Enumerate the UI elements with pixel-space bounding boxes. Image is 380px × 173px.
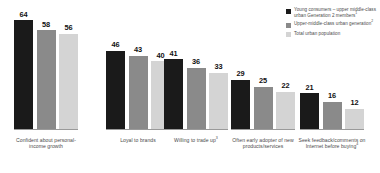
bar-value-label: 33: [214, 63, 222, 71]
bar: [300, 93, 319, 129]
category-label: Willing to trade up3: [158, 137, 234, 143]
bar: [276, 92, 295, 129]
bar-value-label: 12: [350, 99, 358, 107]
bar-value-label: 46: [111, 41, 119, 49]
bar-value-label: 29: [236, 70, 244, 78]
bar-group-bars: 413633: [164, 0, 232, 129]
bar-value-label: 64: [19, 11, 27, 19]
bar-group: 211612: [300, 0, 368, 133]
bar: [164, 59, 183, 129]
bar-value-label: 22: [281, 82, 289, 90]
bar-slot: 36: [187, 0, 206, 129]
bar-slot: 29: [231, 0, 250, 129]
bar-slot: 64: [14, 0, 33, 129]
bar: [59, 34, 78, 129]
bar-slot: 33: [209, 0, 228, 129]
bar-value-label: 58: [42, 21, 50, 29]
bar: [323, 102, 342, 129]
category-label: Confident about personal-income growth: [8, 137, 84, 150]
bar: [254, 87, 273, 130]
bar-value-label: 41: [169, 50, 177, 58]
grouped-bar-chart: Young consumers – upper middle-class urb…: [0, 0, 380, 173]
bar-value-label: 25: [259, 77, 267, 85]
bar-group: 645856: [14, 0, 82, 133]
bar-group: 413633: [164, 0, 232, 133]
bar-slot: 16: [323, 0, 342, 129]
bar-group-bars: 292522: [231, 0, 299, 129]
bar-group-bars: 645856: [14, 0, 82, 129]
group-baseline: [300, 129, 364, 130]
bar: [209, 73, 228, 129]
category-footnote-marker: 4: [356, 143, 358, 147]
group-baseline: [14, 129, 78, 130]
plot-area: 645856464340413633292522211612: [0, 0, 380, 133]
bar: [106, 51, 125, 129]
group-baseline: [164, 129, 228, 130]
bar-slot: 12: [345, 0, 364, 129]
group-baseline: [231, 129, 295, 130]
bar: [345, 109, 364, 129]
bar: [187, 68, 206, 129]
bar-slot: 25: [254, 0, 273, 129]
bar-slot: 46: [106, 0, 125, 129]
bar: [129, 56, 148, 129]
bar-group: 292522: [231, 0, 299, 133]
bar-slot: 43: [129, 0, 148, 129]
bar: [37, 30, 56, 129]
category-label: Seek feedback/comments on Internet befor…: [294, 137, 370, 150]
bar-value-label: 43: [134, 46, 142, 54]
group-baseline: [106, 129, 170, 130]
bar: [14, 20, 33, 129]
bar-value-label: 56: [64, 24, 72, 32]
bar-slot: 56: [59, 0, 78, 129]
bar-value-label: 21: [305, 84, 313, 92]
category-footnote-marker: 3: [216, 136, 218, 140]
bar-slot: 58: [37, 0, 56, 129]
bar: [231, 80, 250, 129]
bar-group-bars: 211612: [300, 0, 368, 129]
bar-slot: 21: [300, 0, 319, 129]
bar-value-label: 36: [192, 58, 200, 66]
bar-value-label: 16: [328, 92, 336, 100]
category-label: Often early adopter of new products/serv…: [225, 137, 301, 150]
bar-slot: 41: [164, 0, 183, 129]
bar-slot: 22: [276, 0, 295, 129]
